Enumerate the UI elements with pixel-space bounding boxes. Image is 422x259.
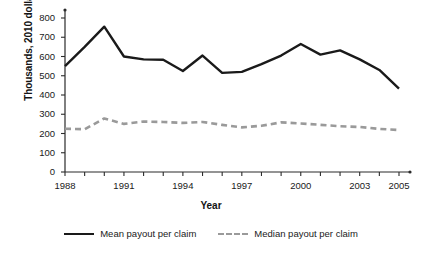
legend-label-mean: Mean payout per claim (100, 228, 196, 239)
plot-area (0, 0, 422, 259)
dashed-line-swatch-icon (218, 233, 248, 235)
y-tick-label: 0 (21, 166, 55, 177)
solid-line-swatch-icon (64, 233, 94, 235)
line-chart: Thousands, 2010 dollars 0100200300400500… (0, 0, 422, 259)
x-tick-label: 1988 (45, 180, 85, 191)
y-tick-label: 300 (21, 108, 55, 119)
legend-item-mean: Mean payout per claim (64, 228, 196, 239)
y-tick-label: 800 (21, 12, 55, 23)
y-tick-label: 700 (21, 31, 55, 42)
series-line-mean (65, 27, 399, 89)
legend-item-median: Median payout per claim (218, 228, 358, 239)
chart-legend: Mean payout per claim Median payout per … (0, 228, 422, 239)
x-tick-label: 1997 (222, 180, 262, 191)
y-tick-label: 600 (21, 51, 55, 62)
x-tick-label: 1991 (104, 180, 144, 191)
y-tick-label: 100 (21, 147, 55, 158)
axis-layer (61, 8, 412, 176)
y-tick-label: 500 (21, 70, 55, 81)
series-line-median (65, 118, 399, 130)
x-tick-label: 2005 (379, 180, 419, 191)
series-layer (65, 27, 399, 130)
legend-label-median: Median payout per claim (254, 228, 358, 239)
x-tick-label: 2003 (340, 180, 380, 191)
y-tick-label: 400 (21, 89, 55, 100)
y-tick-label: 200 (21, 128, 55, 139)
x-axis-title: Year (0, 200, 422, 211)
x-tick-label: 2000 (281, 180, 321, 191)
x-tick-label: 1994 (163, 180, 203, 191)
